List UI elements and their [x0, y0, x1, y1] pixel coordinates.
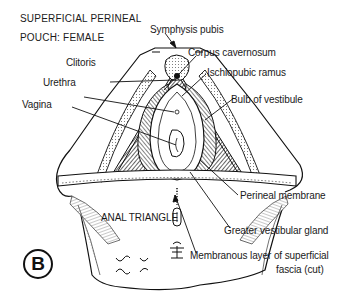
panel-letter-badge: B	[23, 249, 53, 279]
label-anal-triangle: ANAL TRIANGLE	[101, 212, 178, 223]
perineal-membrane-band	[58, 170, 296, 186]
figure-title-line1: SUPERFICIAL PERINEAL	[20, 13, 141, 24]
label-symphysis-pubis: Symphysis pubis	[150, 24, 224, 35]
label-corpus-cavernosum: Corpus cavernosum	[188, 47, 276, 58]
label-greater-vestibular-gland: Greater vestibular gland	[224, 225, 328, 236]
label-clitoris: Clitoris	[66, 57, 96, 68]
label-perineal-membrane: Perineal membrane	[240, 190, 326, 201]
fibers-right	[240, 196, 288, 244]
figure-title-line2: POUCH: FEMALE	[20, 32, 104, 43]
label-bulb-of-vestibule: Bulb of vestibule	[231, 94, 303, 105]
label-ischiopubic-ramus: Ischiopubic ramus	[207, 67, 286, 78]
label-urethra: Urethra	[43, 77, 76, 88]
anus-glyph	[170, 242, 184, 258]
anatomical-figure: SUPERFICIAL PERINEAL POUCH: FEMALE Symph…	[0, 0, 338, 299]
skin-wave-marks	[116, 256, 148, 274]
label-membranous-layer-line2: fascia (cut)	[276, 264, 324, 275]
label-vagina: Vagina	[22, 99, 52, 110]
label-membranous-layer-line1: Membranous layer of superficial	[190, 250, 329, 261]
